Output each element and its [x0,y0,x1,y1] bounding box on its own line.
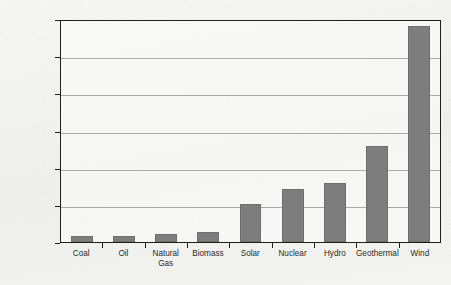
bar[interactable] [408,26,430,242]
y-axis-tick-mark [55,57,60,58]
bar-cell [103,21,145,242]
x-axis-tick-label: Oil [102,249,144,268]
x-axis-labels: CoalOilNatural GasBiomassSolarNuclearHyd… [60,249,441,268]
x-axis-tick-mark [314,243,315,248]
x-axis-tick-label: Wind [399,249,441,268]
x-axis-tick-label: Natural Gas [145,249,187,268]
bar[interactable] [155,234,177,242]
bar-cell [272,21,314,242]
y-axis-tick-mark [55,169,60,170]
y-axis-tick-mark [55,94,60,95]
x-axis-tick-mark [102,243,103,248]
bar-cell [356,21,398,242]
y-axis-tick-mark [55,20,60,21]
y-axis-tick-mark [55,206,60,207]
x-axis-tick-mark [399,243,400,248]
bar-chart: % Efficiency 02004006008001,0001,200 Coa… [0,0,451,285]
bar-cell [145,21,187,242]
bar-cell [61,21,103,242]
bar[interactable] [366,146,388,242]
plot-area [60,20,441,243]
bar-series [61,21,440,242]
bar-cell [398,21,440,242]
x-axis-tick-mark [229,243,230,248]
bar[interactable] [197,232,219,242]
bar[interactable] [324,183,346,242]
x-axis-tick-mark [356,243,357,248]
x-axis-tick-label: Biomass [187,249,229,268]
bar[interactable] [240,204,262,242]
bar[interactable] [71,236,93,242]
bar-cell [229,21,271,242]
y-axis-tick-mark [55,132,60,133]
bar[interactable] [113,236,135,242]
x-axis-tick-label: Nuclear [271,249,313,268]
bar-cell [314,21,356,242]
x-axis-tick-label: Geothermal [356,249,399,268]
x-axis-tick-label: Hydro [314,249,356,268]
x-axis-tick-label: Coal [60,249,102,268]
x-axis-tick-mark [272,243,273,248]
x-axis-tick-mark [145,243,146,248]
x-axis-tick-label: Solar [229,249,271,268]
x-axis-tick-mark [187,243,188,248]
bar[interactable] [282,189,304,242]
bar-cell [187,21,229,242]
